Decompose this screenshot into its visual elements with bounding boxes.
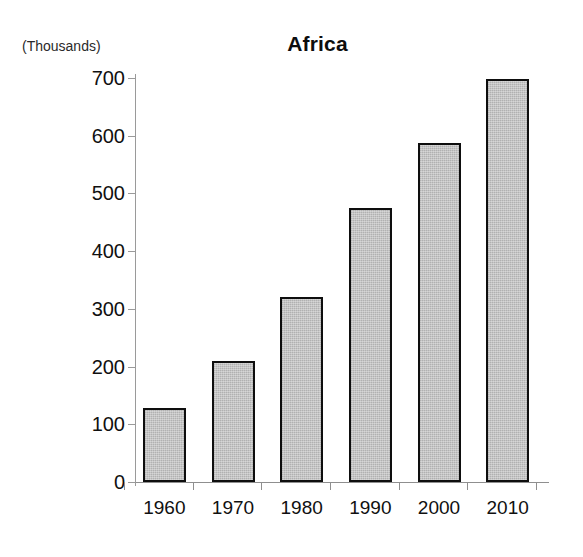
- bar: [418, 143, 461, 482]
- bar: [143, 408, 186, 482]
- chart-title: Africa: [26, 32, 583, 56]
- x-axis-tick-label: 1960: [143, 497, 185, 519]
- y-axis-tick: [128, 424, 136, 425]
- y-axis-tick: [128, 309, 136, 310]
- x-axis-tick: [261, 482, 262, 490]
- x-axis-tick: [193, 482, 194, 490]
- x-axis-tick-label: 2000: [418, 497, 460, 519]
- y-axis-tick: [128, 367, 136, 368]
- y-axis-tick-label: 200: [92, 355, 125, 378]
- y-axis-tick: [128, 482, 136, 483]
- y-axis-tick: [128, 136, 136, 137]
- x-axis-tick-label: 1970: [212, 497, 254, 519]
- x-axis-tick-label: 1980: [281, 497, 323, 519]
- x-axis-tick-label: 2010: [487, 497, 529, 519]
- bar: [212, 361, 255, 482]
- y-axis-tick-label: 700: [92, 67, 125, 90]
- x-axis-line: [128, 482, 549, 483]
- y-axis-tick: [128, 78, 136, 79]
- x-axis-tick: [399, 482, 400, 490]
- x-axis-tick: [124, 482, 125, 490]
- x-axis-tick: [467, 482, 468, 490]
- y-axis-tick: [128, 251, 136, 252]
- y-axis-tick-label: 100: [92, 413, 125, 436]
- plot-area: 0100200300400500600700: [136, 78, 548, 482]
- y-axis-tick: [128, 193, 136, 194]
- bar: [486, 79, 529, 482]
- y-axis-tick-label: 300: [92, 297, 125, 320]
- x-axis-tick: [536, 482, 537, 490]
- x-axis-tick: [330, 482, 331, 490]
- bar: [349, 208, 392, 482]
- y-axis-tick-label: 400: [92, 240, 125, 263]
- y-axis-tick-label: 600: [92, 124, 125, 147]
- bar: [280, 297, 323, 482]
- y-axis-tick-label: 500: [92, 182, 125, 205]
- bar-chart: (Thousands) Africa 010020030040050060070…: [0, 0, 583, 557]
- x-axis-tick-label: 1990: [349, 497, 391, 519]
